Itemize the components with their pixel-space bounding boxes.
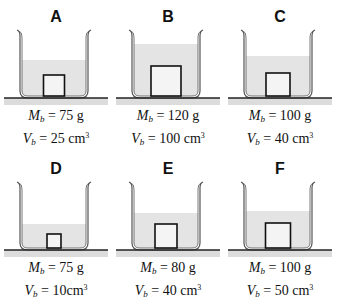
block [155, 224, 177, 248]
panel-b: BMb = 120 gVb = 100 cm3 [112, 0, 224, 150]
beaker-diagram [112, 0, 224, 115]
volume-label: Vb = 50 cm3 [224, 278, 336, 304]
beaker-diagram [0, 0, 112, 115]
table-shadow [4, 250, 108, 257]
table-shadow [4, 98, 108, 105]
table-shadow [116, 98, 220, 105]
table-shadow [116, 250, 220, 257]
block [266, 73, 290, 96]
volume-label: Vb = 40 cm3 [112, 278, 224, 304]
table-shadow [228, 250, 332, 257]
volume-label: Vb = 25 cm3 [0, 126, 112, 152]
beaker-diagram [224, 152, 336, 267]
panel-c: CMb = 100 gVb = 40 cm3 [224, 0, 336, 150]
volume-label: Vb = 40 cm3 [224, 126, 336, 152]
volume-label: Vb = 100 cm3 [112, 126, 224, 152]
panel-f: FMb = 100 gVb = 50 cm3 [224, 152, 336, 302]
beaker-diagram [0, 152, 112, 267]
panel-d: DMb = 75 gVb = 10cm3 [0, 152, 112, 302]
block [266, 223, 291, 248]
volume-label: Vb = 10cm3 [0, 278, 112, 304]
beaker-diagram [224, 0, 336, 115]
block [151, 66, 181, 96]
beaker-diagram [112, 152, 224, 267]
panel-e: EMb = 80 gVb = 40 cm3 [112, 152, 224, 302]
table-shadow [228, 98, 332, 105]
block [47, 234, 61, 248]
panel-a: AMb = 75 gVb = 25 cm3 [0, 0, 112, 150]
block [44, 75, 65, 96]
